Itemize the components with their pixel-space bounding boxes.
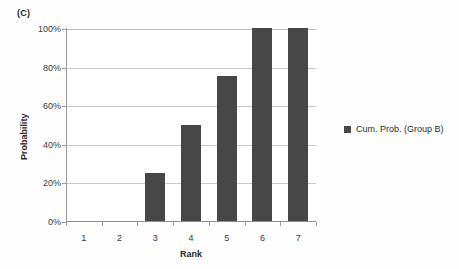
bar	[288, 28, 308, 221]
x-tick-mark	[137, 222, 138, 226]
y-axis-title: Probability	[19, 146, 29, 160]
y-tick-label: 20%	[43, 178, 61, 188]
x-tick-label: 5	[224, 233, 229, 243]
y-tick-label: 80%	[43, 63, 61, 73]
bar	[252, 28, 272, 221]
gridline	[66, 106, 316, 107]
y-tick-mark	[62, 106, 66, 107]
x-tick-label: 3	[153, 233, 158, 243]
x-tick-mark	[66, 222, 67, 226]
plot-area: 100%80%60%40%20%0% 1234567	[66, 29, 316, 222]
x-axis-line	[66, 221, 316, 222]
x-tick-label: 1	[81, 233, 86, 243]
gridline	[66, 68, 316, 69]
x-axis-title: Rank	[66, 249, 316, 259]
x-tick-label: 2	[117, 233, 122, 243]
y-tick-label: 60%	[43, 101, 61, 111]
y-tick-label: 0%	[48, 217, 61, 227]
y-tick-mark	[62, 68, 66, 69]
x-tick-mark	[245, 222, 246, 226]
x-tick-mark	[316, 222, 317, 226]
x-tick-mark	[173, 222, 174, 226]
y-tick-mark	[62, 145, 66, 146]
legend-item-label: Cum. Prob. (Group B)	[356, 124, 444, 134]
bar	[145, 173, 165, 221]
y-tick-label: 100%	[38, 24, 61, 34]
y-tick-label: 40%	[43, 140, 61, 150]
x-tick-label: 4	[188, 233, 193, 243]
x-tick-label: 7	[296, 233, 301, 243]
y-axis-line	[66, 28, 67, 223]
x-tick-mark	[280, 222, 281, 226]
bar	[181, 125, 201, 222]
y-tick-mark	[62, 29, 66, 30]
bar	[217, 76, 237, 221]
x-tick-mark	[102, 222, 103, 226]
chart-legend: Cum. Prob. (Group B)	[344, 124, 444, 134]
gridline	[66, 29, 316, 30]
x-tick-mark	[209, 222, 210, 226]
panel-label: (C)	[17, 8, 30, 18]
chart-figure: (C) Probability 100%80%60%40%20%0% 12345…	[0, 0, 459, 269]
x-tick-label: 6	[260, 233, 265, 243]
square-marker	[344, 126, 351, 133]
y-tick-mark	[62, 183, 66, 184]
